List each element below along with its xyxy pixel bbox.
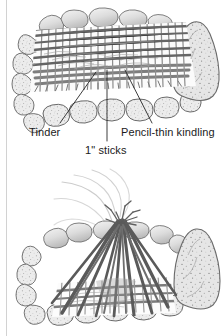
figure-teepee-fire-lay: [0, 163, 224, 336]
illustration-page: Tinder Pencil-thin kindling 1" sticks: [0, 0, 224, 336]
figure-log-cabin-fire-lay: Tinder Pencil-thin kindling 1" sticks: [0, 0, 224, 160]
woven-stick-lattice: [26, 18, 202, 96]
